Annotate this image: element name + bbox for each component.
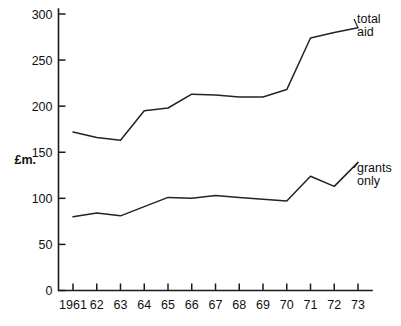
y-tick-label-250: 250 [32, 54, 53, 68]
series-line-total-aid [73, 28, 358, 140]
x-tick-label-69: 69 [256, 298, 270, 312]
x-tick-label-62: 62 [90, 298, 104, 312]
x-tick-label-71: 71 [304, 298, 318, 312]
x-tick-label-64: 64 [137, 298, 151, 312]
total-aid-label-line1: total [357, 12, 381, 26]
x-tick-label-66: 66 [185, 298, 199, 312]
y-tick-label-300: 300 [32, 8, 53, 22]
series-annotation-grants-only: grants only [357, 161, 392, 188]
grants-only-label-line1: grants [357, 161, 392, 175]
series-lines [73, 28, 358, 217]
x-tick-label-68: 68 [232, 298, 246, 312]
line-chart-figure: 050100150200250300 196162636465666768697… [0, 0, 401, 326]
y-tick-label-50: 50 [39, 238, 53, 252]
x-tick-label-63: 63 [114, 298, 128, 312]
series-annotation-total-aid: total aid [357, 12, 381, 39]
axis-group [59, 9, 373, 291]
x-tick-label-1961: 1961 [59, 298, 87, 312]
x-tick-label-65: 65 [161, 298, 175, 312]
y-axis-unit-label: £m. [14, 153, 36, 167]
x-axis-ticks [73, 284, 358, 291]
x-tick-label-72: 72 [327, 298, 341, 312]
series-line-grants-only [73, 162, 358, 216]
x-axis-tick-labels: 1961626364656667686970717273 [59, 298, 365, 312]
y-axis-ticks [59, 14, 66, 291]
y-tick-label-200: 200 [32, 100, 53, 114]
x-tick-label-67: 67 [209, 298, 223, 312]
grants-only-label-line2: only [357, 174, 381, 188]
y-tick-label-100: 100 [32, 192, 53, 206]
x-tick-label-73: 73 [351, 298, 365, 312]
x-tick-label-70: 70 [280, 298, 294, 312]
total-aid-label-line2: aid [357, 25, 374, 39]
chart-canvas: 050100150200250300 196162636465666768697… [0, 0, 401, 326]
y-tick-label-0: 0 [46, 284, 53, 298]
axis-lines [59, 9, 373, 291]
annotation-leaders [354, 19, 358, 168]
